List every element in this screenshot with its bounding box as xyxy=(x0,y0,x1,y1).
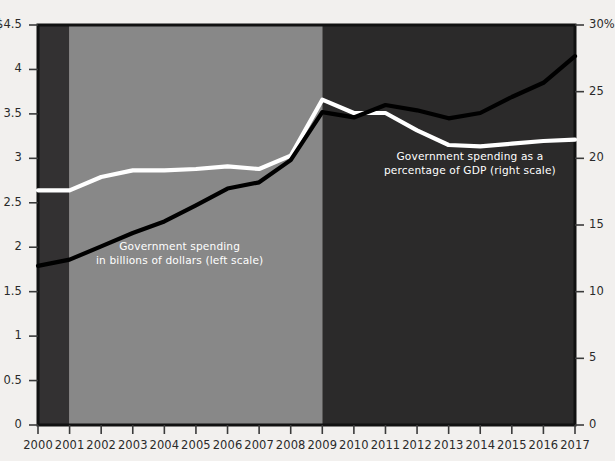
chart-plot-svg xyxy=(0,0,615,461)
annotation-left-line1: Government spending xyxy=(96,240,263,254)
plot-band-2001-2009 xyxy=(70,25,323,425)
left-axis-tick-label: 4 xyxy=(0,61,22,75)
left-axis-tick-label: 1 xyxy=(0,328,22,342)
left-axis-tick-label: 2 xyxy=(0,239,22,253)
annotation-right-line2: percentage of GDP (right scale) xyxy=(384,164,556,178)
left-axis-tick-label: 3 xyxy=(0,150,22,164)
left-axis-tick-label: 0 xyxy=(0,417,22,431)
right-axis-tick-label: 10 xyxy=(589,284,615,298)
chart-container: $4.543.532.521.510.50 30%2520151050 2000… xyxy=(0,0,615,461)
right-axis-tick-label: 30% xyxy=(589,17,615,31)
annotation-left-series: Government spending in billions of dolla… xyxy=(96,240,263,267)
left-axis-tick-label: $4.5 xyxy=(0,17,22,31)
right-axis-tick-label: 0 xyxy=(589,417,615,431)
annotation-left-line2: in billions of dollars (left scale) xyxy=(96,254,263,268)
right-axis-tick-label: 20 xyxy=(589,150,615,164)
annotation-right-series: Government spending as a percentage of G… xyxy=(384,150,556,177)
right-axis-tick-label: 25 xyxy=(589,84,615,98)
left-axis-tick-label: 3.5 xyxy=(0,106,22,120)
bottom-axis-tick-label: 2017 xyxy=(554,438,596,452)
left-axis-tick-label: 0.5 xyxy=(0,373,22,387)
annotation-right-line1: Government spending as a xyxy=(384,150,556,164)
right-axis-tick-label: 15 xyxy=(589,217,615,231)
left-axis-tick-label: 2.5 xyxy=(0,195,22,209)
left-axis-tick-label: 1.5 xyxy=(0,284,22,298)
plot-band-2000-2001 xyxy=(38,25,70,425)
right-axis-tick-label: 5 xyxy=(589,350,615,364)
